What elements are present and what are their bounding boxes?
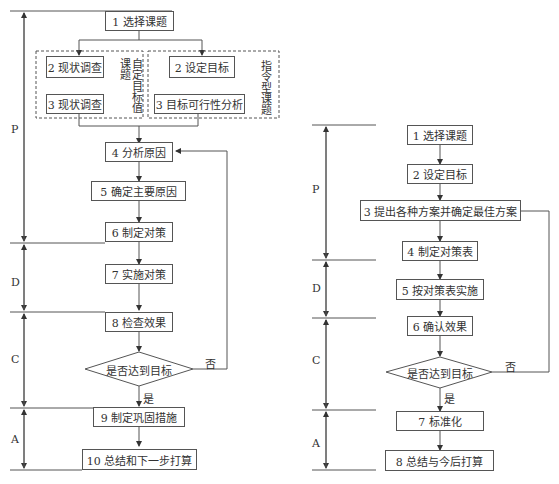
step-select-topic: 1 选择课题 [105, 11, 174, 31]
phase-p-label: P [11, 123, 18, 136]
right-phase-c-label: C [312, 354, 320, 367]
right-step-summary-future: 8 总结与今后打算 [385, 450, 494, 471]
right-step-best-plan: 3 提出各种方案并确定最佳方案 [360, 200, 521, 221]
phase-c-label: C [11, 353, 19, 366]
step-make-measures: 6 制定对策 [105, 222, 173, 242]
step-set-target: 2 设定目标 [169, 56, 235, 78]
decision-target-reached: 是否达到目标 [98, 362, 180, 378]
step-survey-status-a: 2 现状调查 [46, 56, 104, 78]
right-phase-p-label: P [312, 183, 319, 196]
step-analyze-cause: 4 分析原因 [105, 142, 173, 162]
right-step-standardize: 7 标准化 [396, 411, 484, 431]
step-summary-next: 10 总结和下一步打算 [82, 449, 197, 470]
yes-label: 是 [143, 390, 154, 406]
right-step-set-target: 2 设定目标 [407, 164, 473, 184]
right-phase-a-label: A [312, 437, 320, 450]
step-feasibility: 3 目标可行性分析 [154, 94, 245, 114]
right-phase-d-label: D [312, 282, 321, 295]
right-step-confirm-effect: 6 确认效果 [407, 316, 473, 336]
right-step-implement: 5 按对策表实施 [396, 279, 484, 300]
right-step-measure-table: 4 制定对策表 [402, 241, 478, 261]
no-label: 否 [205, 355, 216, 371]
step-main-cause: 5 确定主要原因 [91, 181, 186, 201]
group-label-self-target: 自定目标值 [130, 58, 142, 113]
group-label-directive-topic: 指令型课题 [259, 60, 271, 115]
phase-d-label: D [11, 276, 20, 289]
right-yes-label: 是 [444, 390, 455, 406]
group-label-topic: 课题 [118, 58, 130, 80]
step-check-effect: 8 检查效果 [105, 312, 173, 332]
step-consolidate: 9 制定巩固措施 [93, 407, 185, 427]
right-no-label: 否 [505, 358, 516, 374]
step-implement: 7 实施对策 [105, 264, 173, 284]
phase-a-label: A [11, 433, 19, 446]
step-survey-status-b: 3 现状调查 [46, 94, 104, 114]
right-decision-target-reached: 是否达到目标 [398, 365, 482, 381]
right-step-select-topic: 1 选择课题 [407, 125, 473, 145]
